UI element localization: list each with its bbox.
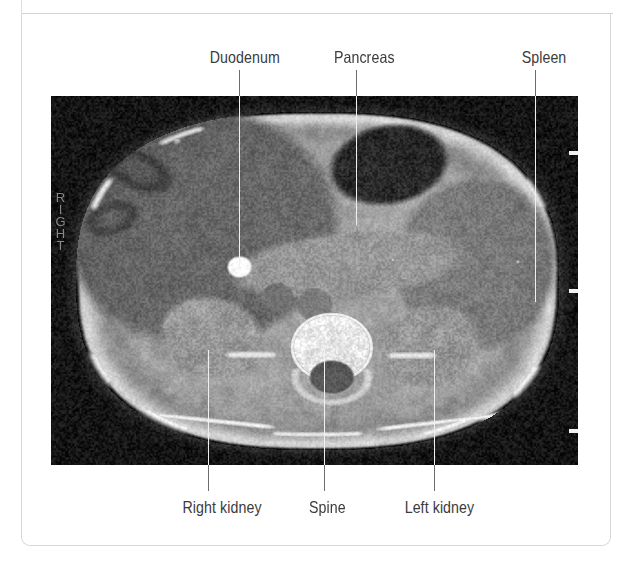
leader-line-left-kidney [434, 350, 435, 465]
ct-scale-tick-icon [569, 151, 578, 155]
anno-label-spleen: Spleen [521, 48, 566, 67]
anno-label-duodenum: Duodenum [210, 48, 280, 67]
anno-label-pancreas: Pancreas [334, 48, 395, 67]
orientation-letter: T [54, 240, 68, 252]
leader-line-right-kidney [208, 465, 209, 491]
anno-label-spine: Spine [309, 498, 346, 517]
ct-scale-tick-icon [569, 289, 578, 293]
ct-scan-image: R I G H T [51, 96, 578, 465]
anno-label-right-kidney: Right kidney [183, 498, 262, 517]
leader-line-duodenum [239, 70, 240, 96]
leader-line-left-kidney [434, 465, 435, 491]
leader-line-spleen [535, 96, 536, 302]
leader-line-spleen [535, 70, 536, 96]
ct-scale-tick-icon [569, 429, 578, 433]
leader-line-duodenum [239, 96, 240, 268]
ct-scan-canvas [51, 96, 578, 465]
leader-line-pancreas [356, 70, 357, 96]
page-frame-edge-left [21, 0, 22, 15]
ct-orientation-marker: R I G H T [54, 192, 68, 252]
anno-label-left-kidney: Left kidney [405, 498, 475, 517]
leader-line-spine [324, 350, 325, 465]
figure-root: R I G H T DuodenumPancreasSpleenRight ki… [0, 0, 634, 570]
leader-line-spine [324, 465, 325, 491]
leader-line-right-kidney [208, 350, 209, 465]
leader-line-pancreas [356, 96, 357, 225]
